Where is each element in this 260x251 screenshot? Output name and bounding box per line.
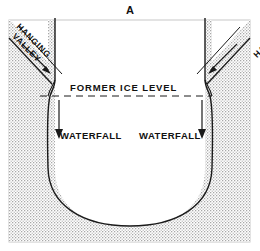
waterfall-right-label: WATERFALL: [139, 130, 201, 141]
panel-letter: A: [0, 4, 260, 16]
former-ice-level-label: FORMER ICE LEVEL: [70, 82, 177, 93]
glacial-valley-diagram: A HANGING VALLEY HANGING VALLEY FORMER I…: [0, 0, 260, 251]
waterfall-left-label: WATERFALL: [60, 130, 122, 141]
